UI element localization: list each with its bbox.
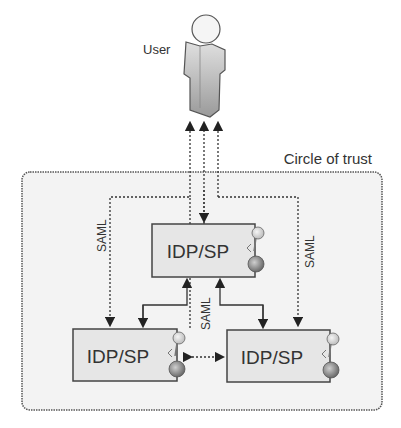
user-label: User: [143, 42, 171, 57]
node-label: IDP/SP: [241, 347, 303, 368]
idp-sp-node-top: IDP/SP: [152, 224, 264, 277]
user-icon: [184, 15, 225, 117]
circle-of-trust-diagram: Circle of trust User SAML SAML SAML IDP/…: [0, 0, 401, 428]
idp-sp-node-bottom-right: IDP/SP: [227, 330, 339, 382]
saml-label-left: SAML: [95, 219, 109, 252]
trust-label: Circle of trust: [284, 150, 373, 167]
saml-label-center: SAML: [199, 297, 213, 330]
saml-label-right: SAML: [303, 235, 317, 268]
idp-sp-node-bottom-left: IDP/SP: [73, 329, 185, 381]
node-label: IDP/SP: [87, 346, 149, 367]
node-label: IDP/SP: [167, 241, 229, 262]
